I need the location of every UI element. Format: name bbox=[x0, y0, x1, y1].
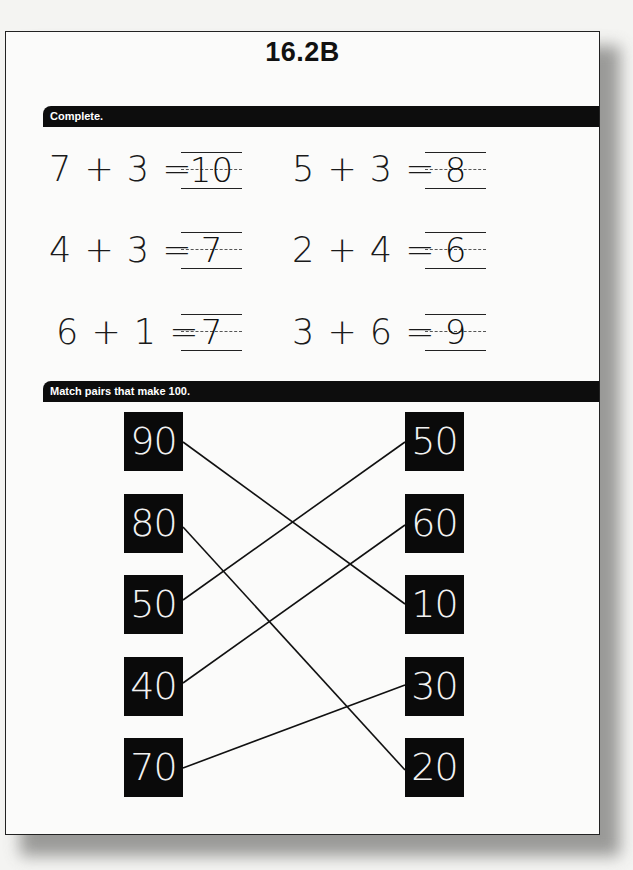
match-box-right[interactable]: 30 bbox=[405, 657, 464, 716]
match-box-right[interactable]: 50 bbox=[405, 412, 464, 471]
match-line-80-20 bbox=[183, 527, 405, 770]
match-box-right[interactable]: 60 bbox=[405, 494, 464, 553]
matching-lines bbox=[0, 0, 633, 870]
match-box-left[interactable]: 90 bbox=[124, 412, 183, 471]
match-box-left[interactable]: 70 bbox=[124, 738, 183, 797]
match-line-70-30 bbox=[183, 685, 405, 768]
match-line-40-60 bbox=[183, 525, 405, 683]
match-box-left[interactable]: 80 bbox=[124, 494, 183, 553]
match-box-left[interactable]: 50 bbox=[124, 575, 183, 634]
match-box-right[interactable]: 20 bbox=[405, 738, 464, 797]
match-box-left[interactable]: 40 bbox=[124, 657, 183, 716]
match-box-right[interactable]: 10 bbox=[405, 575, 464, 634]
